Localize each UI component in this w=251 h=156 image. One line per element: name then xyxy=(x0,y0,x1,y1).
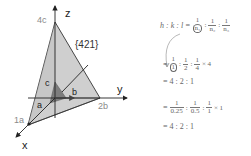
formula-line-3: = 4 : 2 : 1 xyxy=(163,77,194,86)
miller-index-diagram: z y x 4c 2b 1a c b a {421} xyxy=(0,0,140,156)
x-intercept-label: 1a xyxy=(14,116,24,125)
formula-line-1: h : k : l = 1n₁ : 1n₂ : 1n₃ xyxy=(160,17,231,33)
formula-line-5: = 4 : 2 : 1 xyxy=(163,122,194,131)
b-vector-label: b xyxy=(72,88,77,97)
crystal-plane-figure xyxy=(0,0,140,156)
z-axis-label: z xyxy=(65,8,71,19)
z-intercept-label: 4c xyxy=(37,16,47,25)
plane-label: {421} xyxy=(75,40,98,50)
formula-line-2: = 11 : 12 : 14 × 4 xyxy=(163,56,211,72)
y-axis-label: y xyxy=(117,84,123,95)
a-vector-label: a xyxy=(37,101,42,110)
c-vector-label: c xyxy=(45,79,50,88)
formula-line-4: = 10.25 : 10.5 : 11 × 1 xyxy=(163,100,223,115)
x-axis-label: x xyxy=(22,140,28,151)
y-intercept-label: 2b xyxy=(98,102,108,111)
hkl-lhs: h : k : l = xyxy=(160,21,191,30)
miller-index-formula: h : k : l = 1n₁ : 1n₂ : 1n₃ = 11 : 12 : … xyxy=(150,0,251,156)
